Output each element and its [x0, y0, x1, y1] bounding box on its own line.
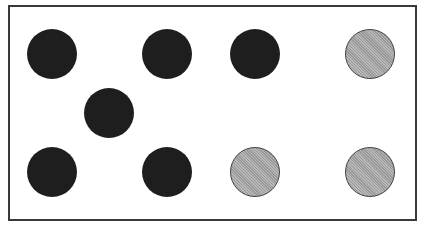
dark-circle-icon: [230, 29, 280, 79]
gray-circle-icon: [345, 29, 395, 79]
dark-circle-icon: [27, 147, 77, 197]
dark-circle-icon: [142, 147, 192, 197]
dark-circle-icon: [142, 29, 192, 79]
dark-circle-icon: [27, 29, 77, 79]
gray-circle-icon: [230, 147, 280, 197]
dark-circle-icon: [84, 88, 134, 138]
gray-circle-icon: [345, 147, 395, 197]
